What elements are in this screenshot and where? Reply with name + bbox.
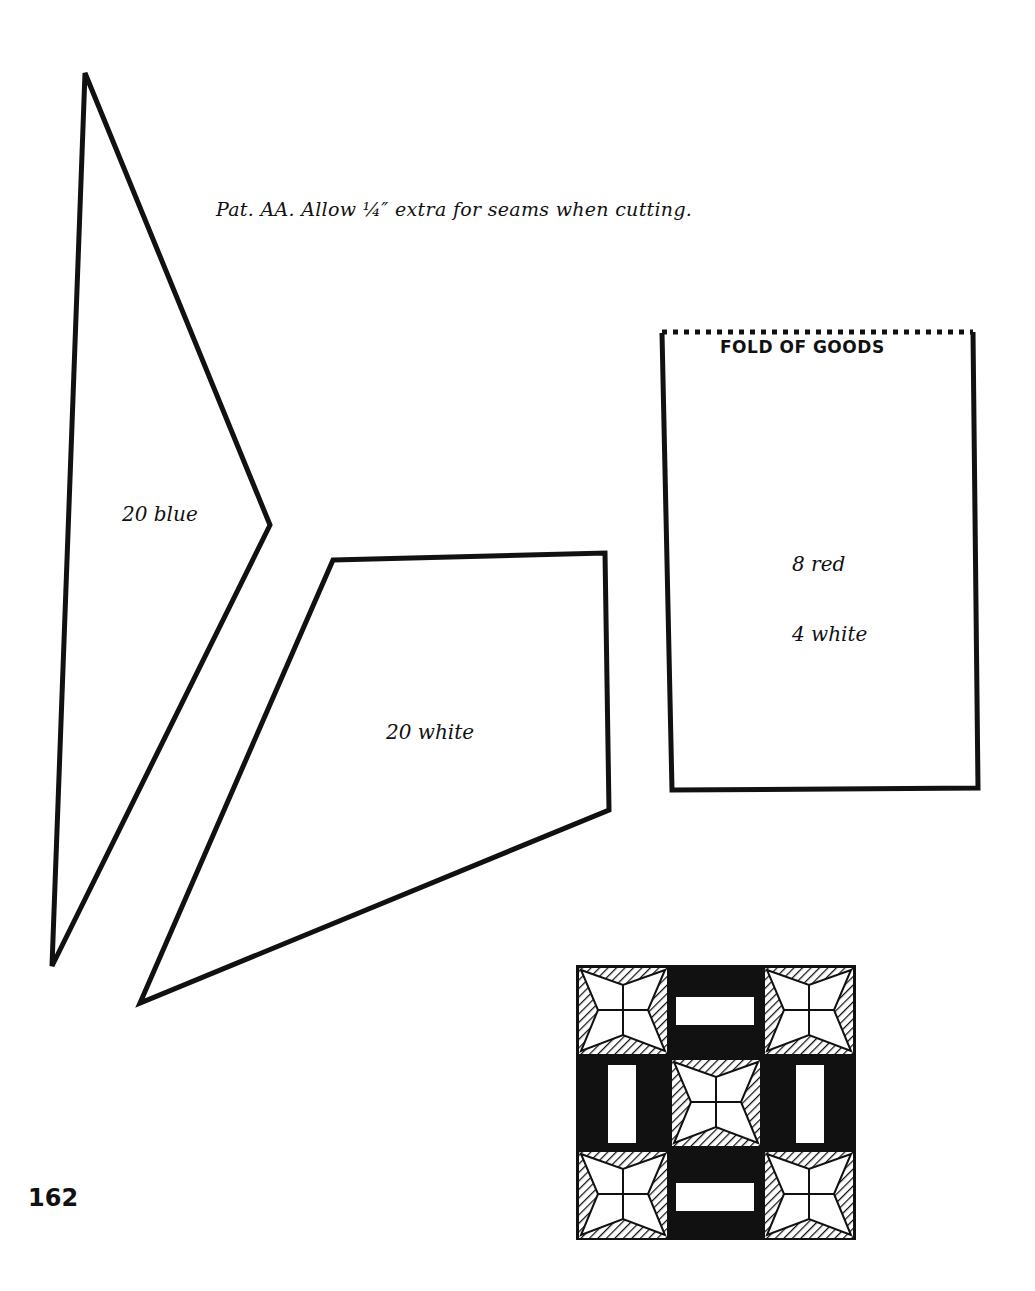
pattern-caption: Pat. AA. Allow ¼″ extra for seams when c… [216, 198, 692, 220]
rectangle-label-red: 8 red [792, 552, 845, 576]
page-number: 162 [28, 1184, 78, 1212]
quilt-block-illustration [576, 965, 856, 1240]
kite-label: 20 blue [122, 502, 198, 526]
rectangle-label-white: 4 white [792, 622, 867, 646]
fold-label: FOLD OF GOODS [720, 337, 885, 357]
pattern-shapes [0, 0, 1035, 1291]
trapezoid-piece [140, 553, 609, 1003]
trapezoid-label: 20 white [386, 720, 474, 744]
